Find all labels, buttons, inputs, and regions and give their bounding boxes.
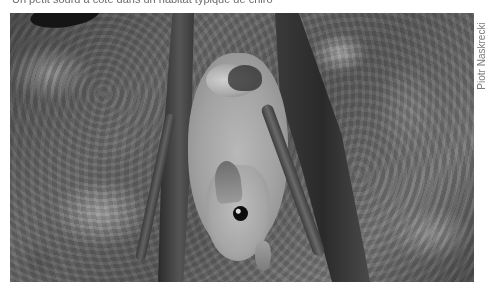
photo-credit: Piotr Naskrecki — [477, 22, 487, 89]
article-figure: Un petit sourd à côté dans un habitat ty… — [0, 0, 491, 288]
bat-pup-head — [228, 65, 262, 91]
bat-snout — [255, 241, 271, 271]
bat-photo — [10, 13, 474, 282]
figure-caption: Un petit sourd à côté dans un habitat ty… — [12, 0, 273, 5]
bat-eye — [233, 206, 248, 221]
